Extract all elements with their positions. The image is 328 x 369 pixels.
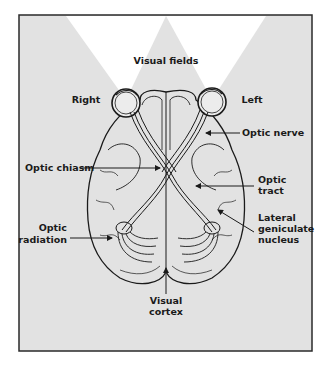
lgn-label-line3: nucleus	[258, 234, 300, 245]
optic-radiation-label-line1: Optic	[39, 222, 67, 233]
right-label: Right	[72, 94, 101, 105]
lgn-label-line1: Lateral	[258, 212, 296, 223]
visual-cortex-label-line2: cortex	[149, 306, 183, 317]
left-eye	[198, 88, 226, 116]
visual-pathway-diagram: Visual fields Right Left Optic nerve Opt…	[0, 0, 328, 369]
optic-tract-label-line2: tract	[258, 185, 284, 196]
visual-fields-label: Visual fields	[133, 55, 198, 66]
optic-chiasm-label: Optic chiasm	[25, 162, 94, 173]
visual-cortex-label-line1: Visual	[150, 295, 183, 306]
right-eye	[112, 89, 140, 117]
optic-tract-label-line1: Optic	[258, 174, 286, 185]
optic-radiation-label-line2: radiation	[18, 234, 67, 245]
left-label: Left	[241, 94, 263, 105]
lgn-label-line2: geniculate	[258, 223, 314, 234]
optic-nerve-label: Optic nerve	[242, 127, 304, 138]
